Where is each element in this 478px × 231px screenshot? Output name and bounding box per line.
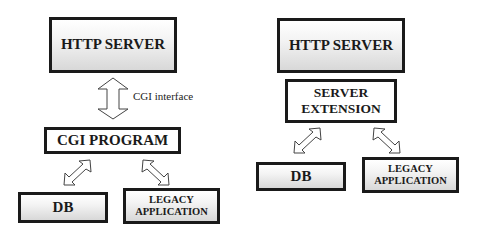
cgi-interface-label: CGI interface <box>133 90 193 102</box>
right-db-label: DB <box>291 168 312 185</box>
left-http-server-label: HTTP SERVER <box>61 36 165 53</box>
right-legacy-line1: LEGACY <box>388 163 433 175</box>
right-legacy-application-box: LEGACY APPLICATION <box>362 157 459 193</box>
right-legacy-double-arrow-icon <box>372 128 400 154</box>
right-db-box: DB <box>256 162 346 191</box>
right-db-double-arrow-icon <box>294 128 322 154</box>
left-legacy-double-arrow-icon <box>141 160 169 186</box>
left-db-box: DB <box>18 192 108 223</box>
server-extension-box: SERVER EXTENSION <box>285 79 397 123</box>
cgi-interface-double-arrow-icon <box>97 78 129 120</box>
left-http-server-box: HTTP SERVER <box>49 17 177 73</box>
cgi-program-label: CGI PROGRAM <box>57 132 168 149</box>
right-http-server-label: HTTP SERVER <box>289 37 393 54</box>
server-extension-line1: SERVER <box>314 85 368 101</box>
right-legacy-line2: APPLICATION <box>374 175 447 187</box>
left-db-double-arrow-icon <box>64 160 92 186</box>
server-extension-line2: EXTENSION <box>301 101 381 117</box>
right-http-server-box: HTTP SERVER <box>277 18 405 73</box>
left-db-label: DB <box>53 199 74 216</box>
cgi-program-box: CGI PROGRAM <box>44 127 181 154</box>
left-legacy-line2: APPLICATION <box>135 206 208 218</box>
left-legacy-line1: LEGACY <box>149 194 194 206</box>
left-legacy-application-box: LEGACY APPLICATION <box>123 188 220 224</box>
